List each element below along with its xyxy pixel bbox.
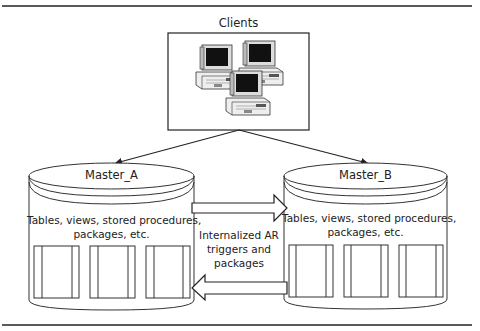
diagram-svg xyxy=(0,0,480,331)
master-b-objects xyxy=(289,245,443,297)
replication-arrow-a-to-b xyxy=(192,195,287,221)
replication-arrow-b-to-a xyxy=(192,275,287,300)
diagram-canvas: Clients Master_A Tables, views, stored p… xyxy=(0,0,480,331)
clients-label: Clients xyxy=(168,17,309,30)
replication-label-line3: packages xyxy=(194,257,284,269)
master-a-contents-line1: Tables, views, stored procedures, xyxy=(27,214,196,226)
arrow-clients-to-master-b xyxy=(239,130,367,163)
master-b-contents-line1: Tables, views, stored procedures, xyxy=(282,212,449,224)
master-a-label: Master_A xyxy=(29,169,194,182)
master-a-contents-line2: packages, etc. xyxy=(27,228,196,240)
master-b-contents-line2: packages, etc. xyxy=(282,226,449,238)
replication-label-line2: triggers and xyxy=(194,243,284,255)
master-b-label: Master_B xyxy=(284,169,447,182)
replication-label-line1: Internalized AR xyxy=(194,229,284,241)
arrow-clients-to-master-a xyxy=(116,130,239,163)
master-a-objects xyxy=(34,246,190,298)
